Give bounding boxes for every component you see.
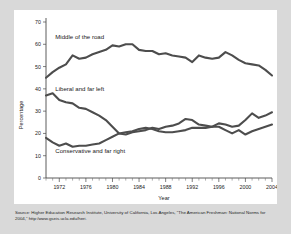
y-tick-label: 0 <box>38 175 41 181</box>
x-tick-label: 1972 <box>53 184 65 190</box>
x-tick-label: 1980 <box>107 184 119 190</box>
x-tick-label: 2004 <box>266 184 277 190</box>
series-line-0 <box>46 44 272 77</box>
x-tick-label: 2000 <box>240 184 252 190</box>
source-line-2: 2004,” http:/www.gseis.ucla.edu/heri. <box>15 216 87 221</box>
series-label-0: Middle of the road <box>55 33 104 40</box>
y-tick-label: 60 <box>35 41 41 47</box>
series-line-2 <box>46 125 272 147</box>
chart-plot-area: 010203040506070 197219761980198419881992… <box>14 10 277 204</box>
y-tick-label: 30 <box>35 108 41 114</box>
source-note: Source: Higher Education Research Instit… <box>15 210 277 223</box>
x-tick-label: 1976 <box>80 184 92 190</box>
y-tick-label: 20 <box>35 130 41 136</box>
x-axis: 197219761980198419881992199620002004 <box>46 178 277 190</box>
series-line-1 <box>46 93 272 134</box>
line-chart-svg: 010203040506070 197219761980198419881992… <box>14 10 277 204</box>
series-label-1: Liberal and far left <box>55 85 104 92</box>
y-axis-title: Percentage <box>18 101 24 130</box>
series-label-2: Conservative and far right <box>55 147 125 154</box>
x-tick-label: 1996 <box>213 184 225 190</box>
x-tick-label: 1992 <box>186 184 198 190</box>
x-tick-label: 1984 <box>133 184 145 190</box>
x-tick-label: 1988 <box>160 184 172 190</box>
y-tick-label: 10 <box>35 153 41 159</box>
source-line-1: Source: Higher Education Research Instit… <box>15 210 265 215</box>
y-tick-label: 40 <box>35 86 41 92</box>
chart-figure: 010203040506070 197219761980198419881992… <box>0 0 291 234</box>
y-tick-label: 50 <box>35 64 41 70</box>
x-axis-title: Year <box>158 195 169 201</box>
y-tick-label: 70 <box>35 19 41 25</box>
y-axis: 010203040506070 <box>35 18 46 181</box>
series-lines <box>46 44 272 147</box>
